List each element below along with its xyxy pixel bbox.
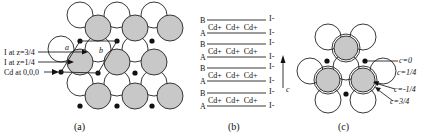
- arrow-up-icon: [281, 55, 286, 63]
- iodine-lower-atom: [157, 83, 183, 109]
- label-c3-4: c=3/4: [390, 97, 409, 106]
- caption-a: (a): [74, 121, 85, 133]
- label-cd-origin: Cd at 0,0,0: [4, 68, 39, 77]
- stacked-iodine-atom: [316, 68, 340, 92]
- stacked-iodine-atom: [334, 36, 358, 60]
- iodine-lower-atom: [157, 15, 183, 41]
- cd-row: Cd+ Cd+ Cd+: [208, 23, 258, 32]
- label-i-one-quarter: I at z=1/4: [4, 58, 35, 67]
- iodide-label: I-: [269, 101, 275, 110]
- label-c0: c=0: [399, 56, 412, 65]
- cadmium-atom: [149, 103, 154, 108]
- cd-row: Cd+ Cd+ Cd+: [208, 71, 258, 80]
- caption-b: (b): [228, 121, 240, 133]
- axis-a-label: a: [65, 43, 69, 52]
- iodide-label: I-: [269, 38, 275, 47]
- layer-label-a: A: [200, 77, 206, 86]
- iodine-lower-atom: [122, 83, 148, 109]
- iodide-label: I-: [269, 87, 275, 96]
- cd-row: Cd+ Cd+ Cd+: [208, 96, 258, 105]
- layer-label-a: A: [200, 53, 206, 62]
- layer-label-b: B: [200, 89, 205, 98]
- caption-c: (c): [338, 121, 349, 133]
- cadmium-atom: [114, 103, 119, 108]
- panel-a: I at z=3/4 I at z=1/4 Cd at 0,0,0 a b (a…: [4, 2, 183, 133]
- label-cneg1-4: c=-1/4: [394, 85, 416, 94]
- cadmium-atom: [77, 103, 82, 108]
- layer-label-b: B: [200, 40, 205, 49]
- iodide-label: I-: [269, 62, 275, 71]
- stacked-iodine-atom: [351, 68, 375, 92]
- label-c1-4: c=1/4: [397, 68, 416, 77]
- axis-b-label: b: [99, 46, 103, 55]
- cadmium-atom: [149, 38, 154, 43]
- layer-label-a: A: [200, 29, 206, 38]
- iodine-lower-atom: [85, 15, 111, 41]
- cadmium-atom: [324, 58, 329, 63]
- iodide-label: I-: [269, 28, 275, 37]
- iodine-lower-atom: [141, 49, 167, 75]
- iodine-lower-atom: [85, 83, 111, 109]
- arrowhead-icon: [52, 69, 59, 75]
- iodine-lower-atom: [104, 49, 130, 75]
- panel-b: B Cd+ Cd+ Cd+ A I- I- B Cd+ Cd+ Cd+ A I-…: [200, 14, 290, 133]
- cd-row: Cd+ Cd+ Cd+: [208, 47, 258, 56]
- cadmium-atom: [343, 91, 348, 96]
- iodide-label: I-: [269, 76, 275, 85]
- cdi2-structure-figure: I at z=3/4 I at z=1/4 Cd at 0,0,0 a b (a…: [0, 0, 426, 140]
- iodide-label: I-: [269, 14, 275, 23]
- panel-c: c=0 c=1/4 c=-1/4 c=3/4 (c): [297, 24, 416, 133]
- layer-label-a: A: [200, 102, 206, 111]
- cadmium-atom: [132, 70, 137, 75]
- iodine-lower-atom: [122, 15, 148, 41]
- layer-label-b: B: [200, 16, 205, 25]
- layer-label-b: B: [200, 64, 205, 73]
- axis-c-label: c: [286, 85, 290, 94]
- iodide-label: I-: [269, 52, 275, 61]
- label-i-three-quarter: I at z=3/4: [4, 48, 35, 57]
- cadmium-atom: [362, 58, 367, 63]
